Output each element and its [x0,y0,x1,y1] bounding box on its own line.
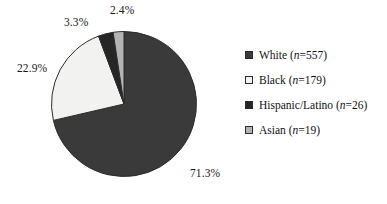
slice-label-white: 71.3% [190,167,220,179]
legend: White (n=557)Black (n=179)Hispanic/Latin… [245,49,387,136]
pie-chart-graphic [50,30,198,178]
legend-swatch-hispanic [245,101,253,109]
legend-label-name: Black ( [259,74,293,86]
slice-label-hispanic: 3.3% [64,16,88,28]
legend-label-name: White ( [259,49,294,61]
legend-item-black: Black (n=179) [245,74,387,86]
legend-label: Black (n=179) [259,74,326,86]
legend-label-count: =19) [298,124,320,136]
legend-item-hispanic-latino: Hispanic/Latino (n=26) [245,99,387,111]
legend-swatch-asian [245,126,253,134]
legend-swatch-white [245,51,253,59]
legend-label-name: Hispanic/Latino ( [259,99,340,111]
legend-label: Asian (n=19) [259,124,320,136]
slice-label-black: 22.9% [17,62,47,74]
legend-label-count: =26) [346,99,368,111]
legend-label-count: =557) [300,49,328,61]
legend-item-asian: Asian (n=19) [245,124,387,136]
slice-label-asian: 2.4% [110,4,134,16]
legend-item-white: White (n=557) [245,49,387,61]
legend-label-name: Asian ( [259,124,293,136]
pie-slice-group [51,32,196,177]
legend-label: White (n=557) [259,49,327,61]
legend-label: Hispanic/Latino (n=26) [259,99,367,111]
legend-label-count: =179) [298,74,326,86]
pie-chart-figure: 2.4% 3.3% 22.9% 71.3% White (n=557)Black… [0,0,387,204]
legend-swatch-black [245,76,253,84]
pie-svg [50,30,198,178]
